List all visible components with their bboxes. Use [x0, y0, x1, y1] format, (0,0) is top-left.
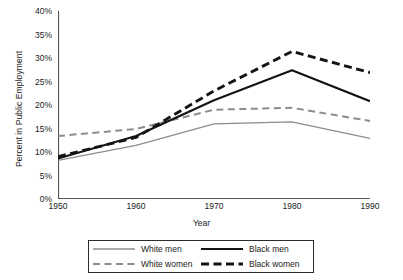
legend-grid: White menBlack menWhite womenBlack women: [89, 241, 313, 272]
legend-label: White men: [141, 244, 182, 254]
plot-area: [58, 11, 370, 199]
y-axis-tick-label: 20%: [22, 101, 52, 109]
series-line-white-women: [58, 108, 370, 136]
y-axis-tick-labels: 0%5%10%15%20%25%30%35%40%: [22, 0, 52, 280]
chart-figure: Percent in Public Employment 0%5%10%15%2…: [0, 0, 403, 280]
x-axis-tick-label: 1960: [116, 201, 156, 211]
x-axis-tick-label: 1950: [38, 201, 78, 211]
x-axis-tick-labels: 19501960197019801990: [0, 201, 403, 217]
y-axis-tick-label: 40%: [22, 7, 52, 15]
y-axis-tick-label: 15%: [22, 125, 52, 133]
legend-item[interactable]: Black women: [200, 259, 318, 269]
legend-swatch-black-men: [200, 244, 244, 254]
series-line-white-men: [58, 122, 370, 161]
series-line-black-men: [58, 70, 370, 158]
x-axis-title: Year: [0, 218, 403, 228]
legend-label: Black women: [249, 259, 300, 269]
x-axis-tick-label: 1970: [194, 201, 234, 211]
y-axis-tick-label: 5%: [22, 172, 52, 180]
x-axis-tick-label: 1980: [272, 201, 312, 211]
legend-item[interactable]: White women: [92, 259, 200, 269]
y-axis-tick-label: 30%: [22, 54, 52, 62]
y-axis-tick-label: 25%: [22, 78, 52, 86]
y-axis-tick-label: 10%: [22, 148, 52, 156]
chart-legend: White menBlack menWhite womenBlack women: [88, 240, 314, 273]
series-line-black-women: [58, 51, 370, 156]
line-chart-svg: [58, 11, 370, 199]
x-axis-tick-label: 1990: [350, 201, 390, 211]
legend-item[interactable]: White men: [92, 244, 200, 254]
legend-swatch-white-women: [92, 259, 136, 269]
legend-label: Black men: [249, 244, 289, 254]
y-axis-tick-label: 35%: [22, 31, 52, 39]
legend-swatch-white-men: [92, 244, 136, 254]
axis-spine: [59, 11, 371, 199]
legend-item[interactable]: Black men: [200, 244, 318, 254]
legend-swatch-black-women: [200, 259, 244, 269]
legend-label: White women: [141, 259, 193, 269]
